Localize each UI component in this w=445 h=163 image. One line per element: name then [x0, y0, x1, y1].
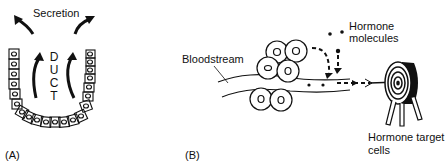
bloodstream-label: Bloodstream: [182, 53, 244, 65]
panel-b-label: (B): [185, 149, 200, 161]
duct-letter-d: D: [49, 51, 59, 64]
hormone-molecules-label-line1: Hormone: [349, 20, 394, 32]
hormone-molecules-label-line2: molecules: [349, 32, 399, 44]
panel-a-label: (A): [5, 149, 20, 161]
target-label-line1: Hormone target: [368, 131, 444, 143]
target-board: [385, 62, 422, 126]
duct-letter-t: T: [49, 90, 59, 103]
target-label-line2: cells: [368, 144, 390, 156]
endocrine-cells: [250, 40, 307, 111]
duct-letter-u: U: [49, 64, 59, 77]
duct-letter-c: C: [49, 77, 59, 90]
secretion-label: Secretion: [33, 7, 79, 19]
hormone-path-arrows: [312, 48, 370, 83]
